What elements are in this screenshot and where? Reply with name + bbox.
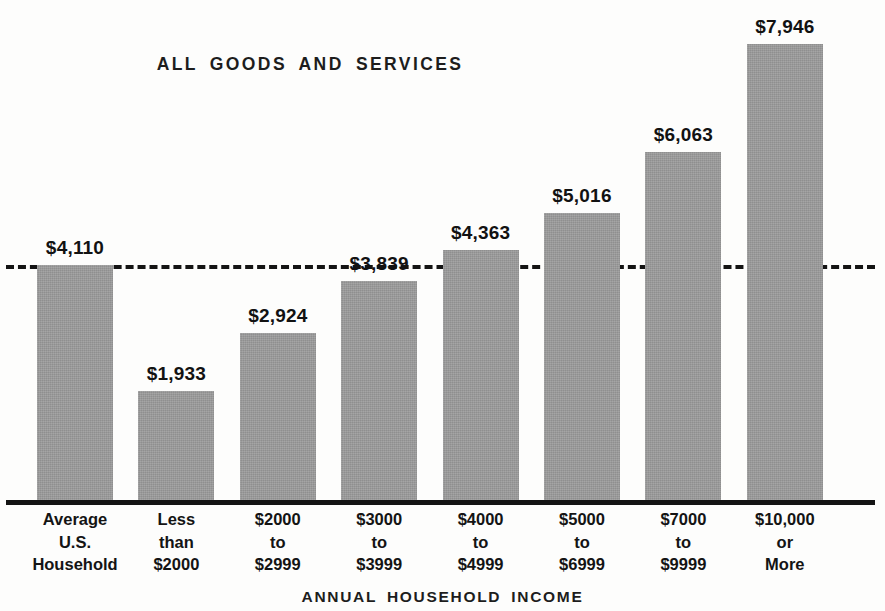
bar-rect[interactable]	[341, 281, 417, 502]
x-axis-tick-label-line: $2000	[223, 508, 333, 531]
bar-value-label: $7,946	[755, 16, 814, 38]
bar-group[interactable]: $2,924	[240, 0, 316, 502]
x-axis-title: ANNUAL HOUSEHOLD INCOME	[0, 588, 885, 606]
bar-value-label: $2,924	[248, 305, 307, 327]
x-axis-tick-label-line: to	[223, 531, 333, 554]
bar-group[interactable]: $7,946	[747, 0, 823, 502]
bar-rect[interactable]	[747, 44, 823, 502]
x-axis-tick-label-line: $6999	[527, 553, 637, 576]
bar-rect[interactable]	[544, 213, 620, 502]
x-axis-tick-label: $3000to$3999	[324, 508, 434, 576]
bar-value-label: $3,839	[350, 253, 409, 275]
bar-group[interactable]: $1,933	[138, 0, 214, 502]
x-axis-category-labels: AverageU.S.HouseholdLessthan$2000$2000to…	[0, 508, 885, 578]
x-axis-tick-label-line: $9999	[628, 553, 738, 576]
bar-value-label: $6,063	[654, 124, 713, 146]
x-axis-tick-label-line: to	[527, 531, 637, 554]
x-axis-tick-label-line: $4000	[426, 508, 536, 531]
x-axis-tick-label: $10,000orMore	[730, 508, 840, 576]
x-axis-tick-label-line: $2000	[121, 553, 231, 576]
x-axis-tick-label: $5000to$6999	[527, 508, 637, 576]
x-axis-tick-label-line: $7000	[628, 508, 738, 531]
x-axis-tick-label: $2000to$2999	[223, 508, 333, 576]
bar-value-label: $5,016	[552, 185, 611, 207]
bar-group[interactable]: $4,110	[37, 0, 113, 502]
x-axis-tick-label-line: $10,000	[730, 508, 840, 531]
bar-group[interactable]: $5,016	[544, 0, 620, 502]
plot-area: $4,110$1,933$2,924$3,839$4,363$5,016$6,0…	[0, 0, 885, 503]
x-axis-tick-label-line: or	[730, 531, 840, 554]
x-axis-tick-label-line: to	[426, 531, 536, 554]
bar-value-label: $1,933	[147, 363, 206, 385]
x-axis-tick-label-line: $5000	[527, 508, 637, 531]
x-axis-tick-label-line: $2999	[223, 553, 333, 576]
x-axis-tick-label-line: than	[121, 531, 231, 554]
x-axis-tick-label: $4000to$4999	[426, 508, 536, 576]
x-axis-tick-label: $7000to$9999	[628, 508, 738, 576]
reference-line-dashed	[6, 265, 875, 269]
x-axis-tick-label-line: Less	[121, 508, 231, 531]
bar-group[interactable]: $3,839	[341, 0, 417, 502]
bar-chart: ALL GOODS AND SERVICES $4,110$1,933$2,92…	[0, 0, 885, 611]
bar-rect[interactable]	[138, 391, 214, 502]
x-axis-tick-label-line: $3000	[324, 508, 434, 531]
x-axis-tick-label-line: Average	[20, 508, 130, 531]
bar-rect[interactable]	[443, 250, 519, 502]
x-axis-tick-label-line: Household	[20, 553, 130, 576]
bar-rect[interactable]	[37, 265, 113, 502]
bar-value-label: $4,110	[46, 237, 104, 259]
bar-group[interactable]: $4,363	[443, 0, 519, 502]
x-axis-tick-label-line: $4999	[426, 553, 536, 576]
bar-value-label: $4,363	[451, 222, 510, 244]
x-axis-tick-label: AverageU.S.Household	[20, 508, 130, 576]
x-axis-tick-label-line: More	[730, 553, 840, 576]
bar-group[interactable]: $6,063	[645, 0, 721, 502]
x-axis-tick-label: Lessthan$2000	[121, 508, 231, 576]
x-axis-tick-label-line: U.S.	[20, 531, 130, 554]
bar-rect[interactable]	[645, 152, 721, 502]
bar-rect[interactable]	[240, 333, 316, 502]
x-axis-tick-label-line: to	[628, 531, 738, 554]
x-axis-tick-label-line: $3999	[324, 553, 434, 576]
x-axis-tick-label-line: to	[324, 531, 434, 554]
x-axis-line	[6, 500, 875, 505]
